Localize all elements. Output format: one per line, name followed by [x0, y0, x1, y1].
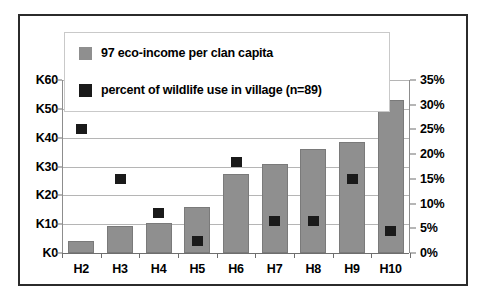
percent-marker-H10: [385, 226, 396, 236]
y-axis-left-tick-label: K60: [36, 73, 58, 87]
y-axis-right-tick-mark: [410, 129, 416, 130]
y-axis-right: 0%5%10%15%20%25%30%35%: [420, 0, 468, 303]
x-axis-tick-mark: [139, 253, 140, 258]
y-axis-left-tick-mark: [56, 224, 62, 225]
y-axis-left-tick-mark: [56, 166, 62, 167]
bar-H6: [223, 174, 249, 253]
x-axis-tick-mark: [217, 253, 218, 258]
x-axis-tick-mark: [178, 253, 179, 258]
bar-H5: [184, 207, 210, 253]
legend-swatch-bar-icon: [79, 47, 92, 60]
bar-H7: [262, 164, 288, 253]
legend-swatch-marker-icon: [79, 84, 92, 97]
y-axis-right-tick-mark: [410, 178, 416, 179]
x-axis-label-H2: H2: [74, 262, 90, 276]
bar-H4: [146, 223, 172, 253]
x-axis-label-H7: H7: [267, 262, 283, 276]
y-axis-right-tick-label: 30%: [420, 98, 444, 112]
y-axis-left-tick-mark: [56, 195, 62, 196]
x-axis-label-H10: H10: [379, 262, 401, 276]
percent-marker-H9: [347, 174, 358, 184]
percent-marker-H5: [192, 236, 203, 246]
y-axis-right-tick-mark: [410, 203, 416, 204]
chart-legend: 97 eco-income per clan capita percent of…: [64, 32, 390, 112]
y-axis-left-tick-mark: [56, 108, 62, 109]
y-axis-right-tick-label: 25%: [420, 122, 444, 136]
bar-H3: [107, 226, 133, 253]
x-axis-tick-mark: [255, 253, 256, 258]
y-axis-right-tick-mark: [410, 228, 416, 229]
x-axis-tick-mark: [410, 253, 411, 258]
y-axis-left: K0K10K20K30K40K50K60: [18, 0, 58, 303]
y-axis-left-tick-label: K10: [36, 217, 58, 231]
percent-marker-H6: [231, 157, 242, 167]
gridline: [63, 138, 409, 139]
percent-marker-H7: [269, 216, 280, 226]
x-axis-label-H8: H8: [306, 262, 322, 276]
y-axis-right-tick-label: 10%: [420, 197, 444, 211]
percent-marker-H3: [115, 174, 126, 184]
bar-H2: [68, 241, 94, 253]
bar-H9: [339, 142, 365, 253]
y-axis-left-tick-label: K30: [36, 160, 58, 174]
y-axis-right-tick-label: 35%: [420, 73, 444, 87]
percent-marker-H2: [76, 124, 87, 134]
x-axis-label-H5: H5: [190, 262, 206, 276]
percent-marker-H8: [308, 216, 319, 226]
x-axis-label-H3: H3: [112, 262, 128, 276]
y-axis-left-tick-label: K20: [36, 188, 58, 202]
x-axis-tick-mark: [371, 253, 372, 258]
y-axis-right-tick-label: 0%: [420, 246, 438, 260]
y-axis-right-tick-mark: [410, 104, 416, 105]
x-axis-tick-mark: [294, 253, 295, 258]
x-axis-label-H9: H9: [344, 262, 360, 276]
x-axis-tick-mark: [101, 253, 102, 258]
x-axis-label-H6: H6: [228, 262, 244, 276]
gridline: [63, 253, 409, 254]
bar-H8: [300, 149, 326, 253]
chart-container: K0K10K20K30K40K50K60 0%5%10%15%20%25%30%…: [0, 0, 486, 303]
legend-entry-eco-income: 97 eco-income per clan capita: [79, 46, 273, 60]
legend-label-wildlife-percent: percent of wildlife use in village (n=89…: [101, 83, 322, 97]
x-axis-tick-mark: [333, 253, 334, 258]
y-axis-left-tick-mark: [56, 80, 62, 81]
y-axis-right-tick-mark: [410, 80, 416, 81]
x-axis-label-H4: H4: [151, 262, 167, 276]
y-axis-left-tick-label: K40: [36, 131, 58, 145]
y-axis-left-tick-label: K50: [36, 102, 58, 116]
percent-marker-H4: [153, 208, 164, 218]
y-axis-right-tick-mark: [410, 154, 416, 155]
y-axis-right-tick-label: 15%: [420, 172, 444, 186]
legend-entry-wildlife-percent: percent of wildlife use in village (n=89…: [79, 83, 322, 97]
y-axis-right-tick-label: 5%: [420, 221, 438, 235]
y-axis-left-tick-mark: [56, 137, 62, 138]
y-axis-right-tick-label: 20%: [420, 147, 444, 161]
legend-label-eco-income: 97 eco-income per clan capita: [101, 46, 273, 60]
x-axis-tick-mark: [62, 253, 63, 258]
